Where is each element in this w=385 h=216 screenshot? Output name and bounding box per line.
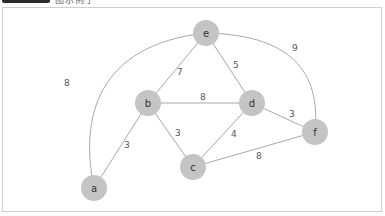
node-d[interactable]: d — [239, 90, 265, 116]
edge-d-c — [193, 103, 252, 167]
node-a[interactable]: a — [81, 175, 107, 201]
edge-label-e-f: 9 — [292, 43, 298, 53]
node-e-label: e — [203, 28, 209, 39]
node-b-label: b — [145, 98, 151, 109]
node-c-label: c — [190, 162, 196, 173]
node-e[interactable]: e — [193, 20, 219, 46]
edge-label-c-f: 8 — [256, 151, 262, 161]
node-a-label: a — [91, 183, 97, 194]
node-f[interactable]: f — [302, 119, 328, 145]
graph-canvas: 8 3 7 8 3 5 9 4 3 8 a b c d e — [0, 0, 385, 216]
edge-e-f — [206, 33, 316, 132]
node-c[interactable]: c — [180, 154, 206, 180]
edge-label-d-c: 4 — [231, 129, 237, 139]
edge-label-b-d: 8 — [200, 92, 206, 102]
edge-label-a-b: 3 — [124, 140, 130, 150]
node-f-label: f — [313, 127, 317, 138]
edge-label-e-d: 5 — [233, 60, 239, 70]
edge-label-d-f: 3 — [289, 109, 295, 119]
edge-c-f — [193, 132, 315, 167]
edge-label-a-e: 8 — [64, 78, 70, 88]
edge-label-b-c: 3 — [175, 128, 181, 138]
edge-label-b-e: 7 — [177, 67, 183, 77]
node-d-label: d — [249, 98, 255, 109]
edge-a-b — [94, 103, 148, 188]
node-b[interactable]: b — [135, 90, 161, 116]
